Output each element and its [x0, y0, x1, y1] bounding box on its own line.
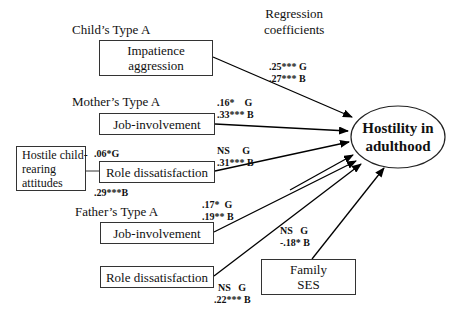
box-family-ses: Family SES	[261, 259, 356, 295]
box-impatience-aggression: Impatience aggression	[99, 40, 213, 76]
coef-child-g: .25*** G	[269, 61, 307, 73]
coef-mother-job-g: .16* G	[217, 97, 252, 109]
coef-ses-b: -.18* B	[280, 237, 310, 249]
coef-mother-role-g: NS G	[217, 145, 250, 157]
coef-father-role-b: .22*** B	[214, 294, 251, 306]
coef-father-role-g: NS G	[218, 282, 246, 294]
arrow-family-ses	[312, 168, 384, 259]
coef-hostile-b: .29***B	[94, 187, 128, 199]
box-father-role-dissatisfaction: Role dissatisfaction	[100, 266, 214, 288]
arrow-extra-1	[290, 155, 353, 190]
group-label-father: Father’s Type A	[75, 204, 158, 219]
coef-hostile-g: .06*G	[94, 148, 119, 160]
coef-ses-g: NS G	[280, 225, 308, 237]
box-mother-role-dissatisfaction: Role dissatisfaction	[99, 161, 215, 183]
arrow-mother-job	[215, 124, 348, 131]
box-hostile-childrearing: Hostile child- rearing attitudes	[16, 146, 86, 191]
coef-mother-job-b: .33*** B	[217, 109, 254, 121]
coef-child-b: .27*** B	[269, 73, 306, 85]
group-label-mother: Mother’s Type A	[72, 94, 160, 109]
coef-mother-role-b: .31*** B	[217, 157, 254, 169]
box-father-job-involvement: Job-involvement	[100, 222, 214, 244]
coef-father-job-g: .17* G	[202, 199, 232, 211]
group-label-child: Child’s Type A	[72, 22, 150, 37]
box-mother-job-involvement: Job-involvement	[99, 113, 215, 135]
regression-coefficients-label: Regression coefficients	[264, 6, 324, 38]
outcome-hostility-label: Hostility in adulthood	[351, 119, 445, 155]
